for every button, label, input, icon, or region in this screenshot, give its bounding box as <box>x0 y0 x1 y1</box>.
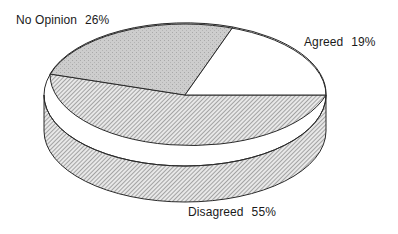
label-disagreed-pct: 55% <box>252 205 276 219</box>
label-no-opinion-pct: 26% <box>85 13 109 27</box>
label-disagreed-name: Disagreed <box>188 205 244 219</box>
label-no-opinion-name: No Opinion <box>16 13 77 27</box>
label-no-opinion: No Opinion26% <box>16 13 109 27</box>
label-disagreed: Disagreed55% <box>188 205 276 219</box>
label-agreed-pct: 19% <box>351 35 375 49</box>
label-agreed-name: Agreed <box>304 35 343 49</box>
label-agreed: Agreed19% <box>304 35 376 49</box>
